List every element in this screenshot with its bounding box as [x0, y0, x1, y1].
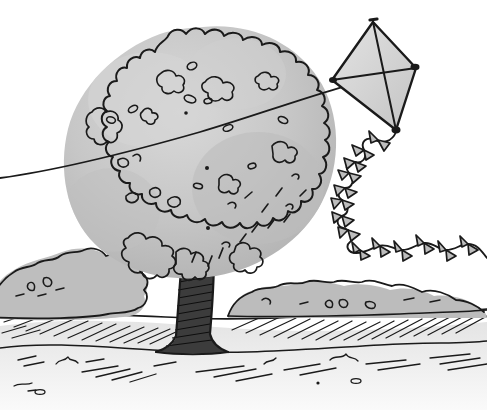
scene-svg [0, 0, 487, 410]
kite-right-knot [411, 64, 420, 70]
kite-left-knot [329, 77, 337, 83]
bush-right [228, 281, 487, 318]
kite-nose-knot [370, 19, 377, 20]
kite-tail [331, 131, 487, 261]
kite [329, 19, 420, 133]
illustration-canvas [0, 0, 487, 410]
kite-tail-ribbons [331, 131, 478, 261]
ground [0, 309, 487, 410]
tree-canopy [64, 26, 336, 280]
